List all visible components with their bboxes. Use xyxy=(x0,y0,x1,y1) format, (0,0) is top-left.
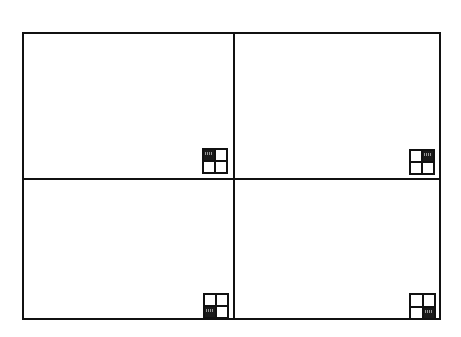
marker-cell-top-right xyxy=(422,150,434,162)
divider-vertical xyxy=(233,32,235,320)
orientation-marker-bottom-left[interactable] xyxy=(203,293,229,319)
marker-cell-top-right xyxy=(215,149,227,161)
marker-cell-bottom-right xyxy=(422,162,434,174)
orientation-marker-top-left[interactable] xyxy=(202,148,228,174)
diagram-canvas: Quadrant Orientation Diagram xyxy=(0,0,461,337)
marker-cell-top-right xyxy=(216,294,228,306)
marker-cell-bottom-left xyxy=(410,162,422,174)
marker-cell-bottom-left xyxy=(203,161,215,173)
marker-cell-bottom-left xyxy=(410,307,423,320)
marker-cell-bottom-right xyxy=(215,161,227,173)
orientation-marker-top-right[interactable] xyxy=(409,149,435,175)
marker-cell-top-left xyxy=(204,294,216,306)
marker-cell-bottom-left xyxy=(204,306,216,318)
marker-cell-top-right xyxy=(423,294,436,307)
marker-cell-bottom-right xyxy=(216,306,228,318)
divider-horizontal xyxy=(22,178,441,180)
orientation-marker-bottom-right[interactable] xyxy=(409,293,436,320)
marker-cell-top-left xyxy=(410,150,422,162)
quadrant-bottom-left[interactable] xyxy=(24,178,233,320)
marker-cell-top-left xyxy=(203,149,215,161)
marker-cell-top-left xyxy=(410,294,423,307)
marker-cell-bottom-right xyxy=(423,307,436,320)
